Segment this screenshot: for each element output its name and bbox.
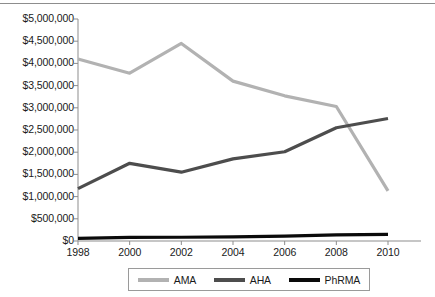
legend-item-ama[interactable]: AMA xyxy=(138,274,196,286)
x-axis-tick-label: 1998 xyxy=(53,246,103,258)
x-axis-tick-label: 2006 xyxy=(260,246,310,258)
chart-legend: AMAAHAPhRMA xyxy=(128,268,370,291)
y-axis-tick-label: $500,000 xyxy=(2,213,74,224)
legend-swatch-phrma xyxy=(289,278,320,282)
legend-item-phrma[interactable]: PhRMA xyxy=(289,274,361,286)
y-axis-tick-label: $2,500,000 xyxy=(2,124,74,135)
x-axis-tick-label: 2004 xyxy=(208,246,258,258)
x-axis-tick-label: 2000 xyxy=(105,246,155,258)
series-layer xyxy=(78,43,388,238)
y-axis-tick-label: $5,000,000 xyxy=(2,13,74,24)
x-axis-tick-label: 2010 xyxy=(363,246,413,258)
legend-item-aha[interactable]: AHA xyxy=(214,274,271,286)
legend-swatch-ama xyxy=(138,278,169,282)
series-line-phrma xyxy=(78,234,388,238)
y-axis-tick-label: $1,500,000 xyxy=(2,168,74,179)
x-axis-tick-label: 2002 xyxy=(156,246,206,258)
y-axis-tick-label: $0 xyxy=(2,235,74,246)
y-axis-tick-label: $4,500,000 xyxy=(2,35,74,46)
y-axis-tick-label: $3,500,000 xyxy=(2,80,74,91)
legend-label: PhRMA xyxy=(325,274,361,286)
legend-label: AMA xyxy=(174,274,196,286)
y-axis-tick-label: $1,000,000 xyxy=(2,191,74,202)
y-axis-tick-label: $3,000,000 xyxy=(2,102,74,113)
series-line-ama xyxy=(78,43,388,190)
legend-swatch-aha xyxy=(214,278,245,282)
series-line-aha xyxy=(78,118,388,188)
legend-label: AHA xyxy=(250,274,271,286)
x-axis-tick-label: 2008 xyxy=(311,246,361,258)
line-chart: $0$500,000$1,000,000$1,500,000$2,000,000… xyxy=(0,0,435,297)
y-axis-tick-label: $4,000,000 xyxy=(2,57,74,68)
axis-layer xyxy=(74,19,421,245)
y-axis-tick-label: $2,000,000 xyxy=(2,146,74,157)
